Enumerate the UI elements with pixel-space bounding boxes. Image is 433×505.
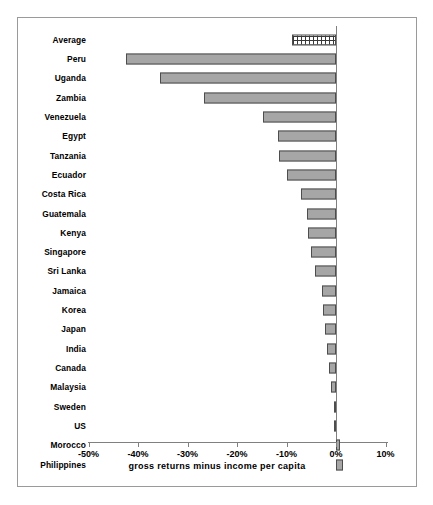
x-tick-label: -20% (226, 449, 247, 459)
category-label: Jamaica (52, 286, 86, 296)
x-axis-title: gross returns minus income per capita (18, 461, 416, 471)
bar-row: Malaysia (18, 378, 416, 397)
category-label: Guatemala (42, 209, 86, 219)
bar-row: Peru (18, 49, 416, 68)
bar (160, 73, 336, 84)
bar-row: Korea (18, 300, 416, 319)
bar-row: Uganda (18, 69, 416, 88)
category-label: Sweden (54, 402, 86, 412)
bar (279, 150, 336, 161)
plot-area: AveragePeruUgandaZambiaVenezuelaEgyptTan… (18, 18, 416, 486)
category-label: Korea (62, 305, 86, 315)
category-label: Ecuador (52, 170, 86, 180)
bar-row: Canada (18, 358, 416, 377)
bar-row: Sri Lanka (18, 262, 416, 281)
bar (331, 382, 336, 393)
bar (292, 34, 336, 45)
bar (329, 363, 336, 374)
bar-row: Kenya (18, 223, 416, 242)
bar (323, 305, 336, 316)
x-tick-label: -30% (177, 449, 198, 459)
x-tick-mark (138, 442, 139, 447)
x-tick-label: -40% (127, 449, 148, 459)
bar (334, 401, 336, 412)
category-label: Singapore (44, 247, 86, 257)
bar-row: Venezuela (18, 107, 416, 126)
bar (204, 92, 336, 103)
category-label: Zambia (56, 93, 86, 103)
bar-row: Ecuador (18, 165, 416, 184)
bar (308, 227, 336, 238)
bar-row: Jamaica (18, 281, 416, 300)
category-label: Sri Lanka (47, 266, 86, 276)
bar (126, 53, 336, 64)
x-tick-mark (287, 442, 288, 447)
category-label: Kenya (60, 228, 86, 238)
bar (301, 189, 336, 200)
category-label: US (74, 421, 86, 431)
category-label: Canada (55, 363, 86, 373)
chart-frame: AveragePeruUgandaZambiaVenezuelaEgyptTan… (17, 17, 417, 487)
category-label: Egypt (62, 131, 86, 141)
bar-row: India (18, 339, 416, 358)
bar (263, 111, 336, 122)
category-label: Venezuela (45, 112, 86, 122)
x-tick-label: 0% (329, 449, 342, 459)
x-tick-mark (89, 442, 90, 447)
bar-row: US (18, 416, 416, 435)
bar (322, 285, 336, 296)
category-label: Tanzania (50, 151, 86, 161)
x-tick-mark (386, 442, 387, 447)
bar (325, 324, 336, 335)
bar (315, 266, 336, 277)
bar-row: Guatemala (18, 204, 416, 223)
x-tick-label: -50% (78, 449, 99, 459)
bar (307, 208, 336, 219)
x-tick-label: -10% (276, 449, 297, 459)
bar (287, 169, 336, 180)
x-tick-mark (336, 442, 337, 447)
bar-row: Costa Rica (18, 185, 416, 204)
bar-row: Japan (18, 320, 416, 339)
bar (327, 343, 336, 354)
category-label: Japan (61, 324, 86, 334)
category-label: Peru (67, 54, 86, 64)
bar-row: Tanzania (18, 146, 416, 165)
bar-row: Singapore (18, 243, 416, 262)
x-tick-label: 10% (376, 449, 394, 459)
bar (311, 247, 336, 258)
category-label: Costa Rica (42, 189, 86, 199)
bar-row: Egypt (18, 127, 416, 146)
bar-row: Sweden (18, 397, 416, 416)
category-label: Malaysia (50, 382, 86, 392)
bar-row: Average (18, 30, 416, 49)
x-tick-mark (237, 442, 238, 447)
bar (334, 421, 336, 432)
x-tick-mark (188, 442, 189, 447)
bar-row: Zambia (18, 88, 416, 107)
category-label: India (66, 344, 86, 354)
category-label: Uganda (55, 73, 86, 83)
bar (278, 131, 336, 142)
category-label: Average (53, 35, 86, 45)
